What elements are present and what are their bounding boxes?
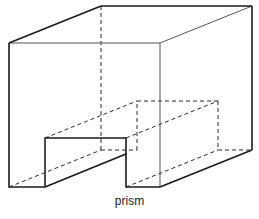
depth-edge-bottom-left	[9, 150, 101, 187]
diagram-caption: prism	[0, 194, 259, 208]
depth-edge-notch-top-right	[126, 101, 218, 138]
depth-edge-notch-top-left	[45, 101, 137, 138]
depth-edge-bottom-right	[160, 150, 252, 187]
notch-floor-depth-edge	[45, 154, 126, 187]
prism-diagram	[0, 0, 259, 219]
depth-edge-top-right	[160, 6, 252, 43]
depth-edge-top-left	[9, 6, 101, 43]
